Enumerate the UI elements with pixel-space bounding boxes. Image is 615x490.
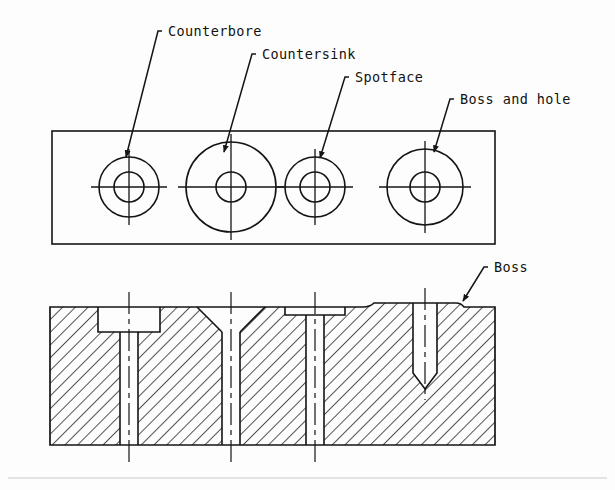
counterbore-label-text: Counterbore [168,23,262,39]
engineering-drawing-svg: Counterbore Countersink Spotface Boss an… [0,0,615,490]
plan-feature-boss-and-hole [379,141,471,233]
label-spotface: Spotface [320,69,423,158]
drawing-canvas: Counterbore Countersink Spotface Boss an… [0,0,615,490]
spotface-leader-line [320,77,349,158]
plan-feature-countersink [178,134,284,240]
plan-feature-spotface [277,149,353,225]
sectional-view [50,288,495,462]
countersink-label-text: Countersink [262,46,356,62]
label-boss: Boss [463,259,528,301]
boss-leader-line [463,267,488,301]
label-countersink: Countersink [224,46,356,152]
spotface-label-text: Spotface [355,69,423,85]
plan-feature-counterbore [91,149,167,225]
boss-and-hole-label-text: Boss and hole [460,91,571,107]
label-boss-and-hole: Boss and hole [434,91,571,152]
counterbore-leader-line [126,31,162,157]
plan-view [52,131,495,244]
countersink-leader-line [224,54,256,152]
section-body-hatched [50,303,495,445]
boss-and-hole-leader-line [434,99,454,152]
boss-label-text: Boss [494,259,528,275]
